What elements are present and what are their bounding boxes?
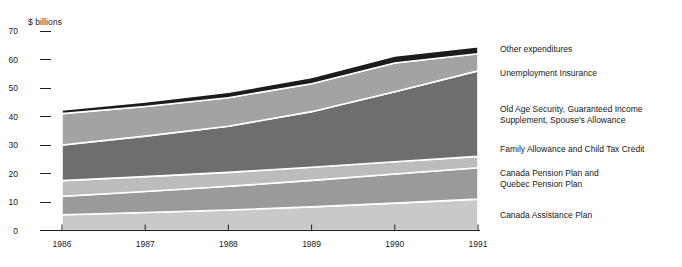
x-axis-tick-label: 1986	[32, 239, 92, 250]
legend-entry: Family Allowance and Child Tax Credit	[500, 144, 644, 155]
legend-entry: Old Age Security, Guaranteed Income Supp…	[500, 104, 643, 125]
legend-entry: Other expenditures	[500, 44, 572, 55]
x-axis-tick-label: 1989	[282, 239, 342, 250]
x-axis-tick-label: 1988	[198, 239, 258, 250]
stacked-area-chart: $ billions 706050403020100 1986198719881…	[0, 0, 682, 267]
x-axis-tick-label: 1987	[115, 239, 175, 250]
x-axis-tick-label: 1991	[448, 239, 508, 250]
legend-entry: Unemployment Insurance	[500, 68, 597, 79]
x-axis-tick-label: 1990	[365, 239, 425, 250]
legend-entry: Canada Assistance Plan	[500, 210, 592, 221]
plot-area	[0, 0, 682, 267]
legend-entry: Canada Pension Plan and Quebec Pension P…	[500, 168, 599, 189]
